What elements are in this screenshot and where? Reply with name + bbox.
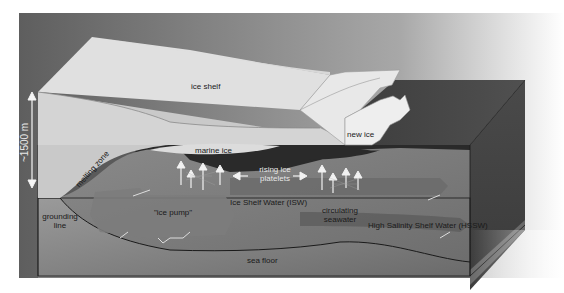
rising-ice-label-line1: rising ice: [250, 165, 300, 174]
marine-ice-label: marine ice: [195, 146, 232, 155]
circulating-seawater-line1: circulating: [310, 206, 370, 215]
circulating-seawater-label: circulating seawater: [310, 206, 370, 224]
circulating-seawater-line2: seawater: [310, 215, 370, 224]
sea-floor-label: sea floor: [247, 256, 278, 265]
ice-shelf-label: ice shelf: [191, 82, 220, 91]
ice-pump-label: "ice pump": [154, 208, 192, 217]
grounding-line-label: grounding line: [40, 212, 80, 230]
diagram-canvas: [0, 0, 564, 293]
grounding-line-label-line2: line: [40, 221, 80, 230]
depth-scale-label: ~1500 m: [20, 123, 29, 162]
ice-shelf-diagram: ice shelf new ice marine ice rising ice …: [0, 0, 564, 293]
grounding-line-label-line1: grounding: [40, 212, 80, 221]
rising-ice-platelets-label: rising ice platelets: [250, 165, 300, 183]
rising-ice-label-line2: platelets: [250, 174, 300, 183]
isw-label: Ice Shelf Water (ISW): [230, 198, 307, 207]
new-ice-label: new ice: [347, 130, 374, 139]
hssw-label: High Salinity Shelf Water (HSSW): [368, 221, 488, 230]
